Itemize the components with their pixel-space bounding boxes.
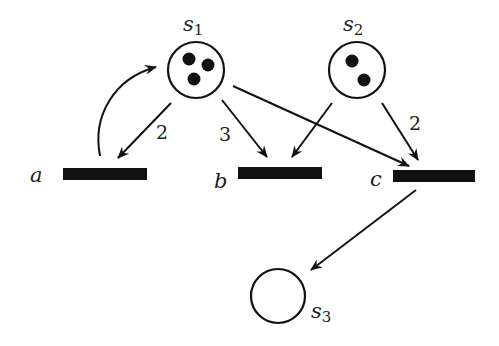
place-s3-label: s3 [311, 299, 331, 326]
transition-b-label: b [214, 169, 227, 193]
place-s1-label: s1 [183, 12, 203, 39]
transition-c[interactable] [393, 170, 475, 182]
transition-a-label: a [30, 163, 43, 187]
arc-weight-s1-b: 3 [219, 123, 231, 145]
transition-a[interactable] [63, 168, 147, 180]
petri-net-diagram: s1 s2 s3 a b c 2 3 2 [0, 0, 499, 346]
transition-b[interactable] [238, 167, 322, 179]
token [202, 59, 215, 72]
arc-s1-to-c [233, 86, 409, 166]
transition-c-label: c [370, 167, 382, 191]
place-s2-label: s2 [343, 12, 363, 39]
arc-s2-to-b [292, 103, 332, 157]
arc-a-to-s1 [98, 67, 156, 156]
arc-c-to-s3 [311, 190, 416, 270]
token [183, 53, 196, 66]
arc-weight-s2-c: 2 [409, 112, 421, 134]
place-s1[interactable] [168, 42, 224, 98]
token [358, 74, 371, 87]
arc-weight-s1-a: 2 [156, 121, 168, 143]
place-s2[interactable] [329, 42, 385, 98]
token [188, 73, 201, 86]
token [346, 55, 359, 68]
place-s3[interactable] [251, 269, 305, 323]
